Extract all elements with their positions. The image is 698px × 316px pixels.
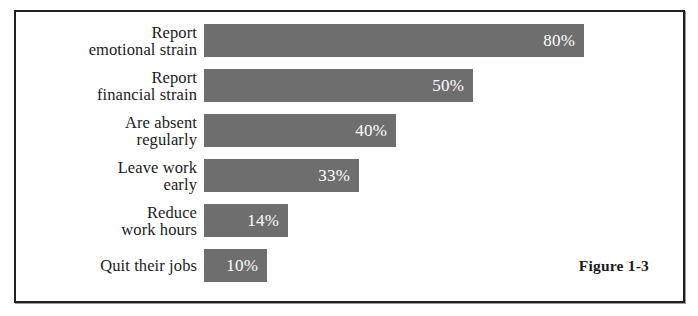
bar-value-label: 40% — [355, 122, 387, 139]
figure-border-frame: Report emotional strain 80% Report finan… — [14, 10, 685, 303]
figure-caption: Figure 1-3 — [579, 257, 649, 275]
chart-row: Report emotional strain 80% — [16, 24, 683, 57]
bar-value-label: 10% — [226, 257, 258, 274]
category-label: Are absent regularly — [16, 114, 204, 148]
chart-row: Leave work early 33% — [16, 159, 683, 192]
category-label: Quit their jobs — [16, 257, 204, 274]
category-label: Leave work early — [16, 159, 204, 193]
bar-value-label: 14% — [247, 212, 279, 229]
bar: 50% — [204, 69, 473, 102]
bar-value-label: 33% — [318, 167, 350, 184]
bar: 80% — [204, 24, 584, 57]
bar-value-label: 50% — [432, 77, 464, 94]
category-label: Reduce work hours — [16, 204, 204, 238]
bar-track: 33% — [204, 159, 683, 192]
bar-track: 14% — [204, 204, 683, 237]
bar-track: 40% — [204, 114, 683, 147]
chart-row: Are absent regularly 40% — [16, 114, 683, 147]
chart-row: Report financial strain 50% — [16, 69, 683, 102]
category-label: Report emotional strain — [16, 24, 204, 58]
bar: 40% — [204, 114, 396, 147]
category-label: Report financial strain — [16, 69, 204, 103]
bar: 10% — [204, 249, 267, 282]
figure-container: Report emotional strain 80% Report finan… — [0, 0, 698, 316]
bar: 33% — [204, 159, 359, 192]
bar: 14% — [204, 204, 288, 237]
chart-row: Reduce work hours 14% — [16, 204, 683, 237]
bar-value-label: 80% — [543, 32, 575, 49]
bar-track: 50% — [204, 69, 683, 102]
bar-track: 80% — [204, 24, 683, 57]
